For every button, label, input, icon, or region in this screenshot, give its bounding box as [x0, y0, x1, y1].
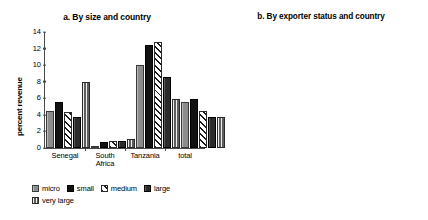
bar-group	[45, 32, 90, 148]
y-tick-label: 6	[37, 95, 45, 103]
bar-medium	[199, 111, 207, 148]
legend-item[interactable]: very large	[32, 196, 74, 205]
bar-medium	[154, 42, 162, 148]
bar-small	[55, 102, 63, 148]
legend-item[interactable]: large	[144, 184, 170, 193]
y-tick-label: 2	[37, 128, 45, 136]
legend-item[interactable]: small	[67, 184, 94, 193]
chart-a-bar-groups	[45, 32, 205, 148]
chart-a-title: a. By size and country	[0, 12, 214, 22]
bar-micro	[136, 65, 144, 148]
y-tick-label: 8	[37, 78, 45, 86]
bar-large	[118, 141, 126, 148]
bar-medium	[64, 112, 72, 148]
chart-a-y-axis-label: percent revenue	[15, 77, 24, 136]
chart-b-title: b. By exporter status and country	[214, 12, 428, 21]
bar-large	[73, 117, 81, 148]
legend-swatch-icon	[144, 185, 151, 192]
y-tick-label: 14	[33, 28, 45, 36]
legend-label: small	[77, 184, 94, 193]
bar-medium	[109, 141, 117, 148]
bar-group	[135, 32, 180, 148]
bar-micro	[46, 111, 54, 148]
y-tick-label: 0	[37, 144, 45, 152]
bar-small	[145, 45, 153, 148]
bar-very-large	[127, 139, 135, 148]
legend-swatch-icon	[32, 185, 39, 192]
legend-label: micro	[42, 184, 60, 193]
x-tick-mark	[125, 148, 126, 151]
bar-micro	[181, 102, 189, 148]
legend-label: medium	[111, 184, 137, 193]
x-tick-mark	[85, 148, 86, 151]
legend-label: very large	[42, 196, 74, 205]
bar-group-inner	[90, 32, 135, 148]
chart-a-plot-area: SenegalSouthAfricaTanzaniatotal 14121086…	[44, 32, 205, 149]
figure-container: a. By size and country percent revenue S…	[0, 0, 428, 220]
x-tick-label: Senegal	[45, 148, 85, 169]
legend-label: large	[154, 184, 170, 193]
x-tick-label: SouthAfrica	[85, 148, 125, 169]
legend-swatch-icon	[67, 185, 74, 192]
chart-panel-b: b. By exporter status and country percen…	[214, 0, 428, 220]
chart-a-x-tick-labels: SenegalSouthAfricaTanzaniatotal	[45, 148, 205, 169]
bar-group-inner	[45, 32, 90, 148]
chart-panel-a: a. By size and country percent revenue S…	[0, 0, 214, 220]
x-tick-label: total	[165, 148, 205, 169]
y-tick-label: 12	[33, 45, 45, 53]
legend-item[interactable]: micro	[32, 184, 60, 193]
y-tick-label: 10	[33, 61, 45, 69]
bar-large	[163, 77, 171, 148]
bar-group	[90, 32, 135, 148]
bar-very-large	[172, 99, 180, 148]
bar-very-large	[82, 82, 90, 148]
x-tick-label: Tanzania	[125, 148, 165, 169]
bar-group-inner	[135, 32, 180, 148]
x-tick-mark	[165, 148, 166, 151]
legend-swatch-icon	[32, 197, 39, 204]
y-tick-label: 4	[37, 111, 45, 119]
legend-item[interactable]: medium	[101, 184, 137, 193]
legend-swatch-icon	[101, 185, 108, 192]
bar-small	[190, 99, 198, 148]
chart-a-legend: microsmallmediumlargevery large	[32, 184, 212, 205]
